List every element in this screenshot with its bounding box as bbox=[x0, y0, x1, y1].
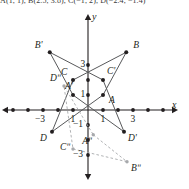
point-label-C-dd: Cʺ bbox=[60, 143, 70, 153]
coordinate-plane-figure: A(1, 1), B(2.5, 3.8), C(−1, 2), D(−2.4, … bbox=[0, 0, 189, 189]
vertex-B bbox=[124, 50, 128, 54]
y-tick-label-1: 1 bbox=[81, 90, 86, 100]
y-axis-tick bbox=[86, 153, 90, 157]
point-label-D-dd: Dʺ bbox=[50, 74, 61, 84]
point-label-A: A bbox=[109, 96, 115, 106]
point-label-B-dd: Bʺ bbox=[131, 164, 141, 174]
y-tick-label--3: −3 bbox=[73, 150, 83, 160]
y-axis-tick bbox=[86, 63, 90, 67]
x-axis-tick bbox=[71, 108, 75, 112]
y-axis-tick bbox=[86, 78, 90, 82]
point-label-A-p: A' bbox=[65, 82, 73, 92]
coordinate-plane-svg bbox=[0, 0, 189, 189]
vertex-A-dd bbox=[92, 133, 95, 136]
point-label-C-p: C' bbox=[107, 67, 115, 77]
x-axis-tick bbox=[146, 108, 150, 112]
vertex-A bbox=[71, 93, 75, 97]
vertex-D bbox=[50, 130, 54, 134]
point-label-A-dd: Aʺ bbox=[82, 137, 92, 147]
x-axis-label: x bbox=[172, 100, 176, 110]
y-axis-arrow-bottom bbox=[85, 174, 91, 180]
x-axis-tick bbox=[41, 108, 45, 112]
x-axis-tick bbox=[11, 108, 15, 112]
vertex-A bbox=[101, 93, 105, 97]
x-tick-label--3: −3 bbox=[35, 115, 45, 125]
y-tick-label--1: −1 bbox=[73, 120, 83, 130]
x-axis-tick bbox=[101, 108, 105, 112]
y-axis-arrow-top bbox=[85, 14, 91, 20]
x-axis-tick bbox=[56, 108, 60, 112]
x-tick-label-3: 3 bbox=[131, 115, 136, 125]
x-tick-label-1: 1 bbox=[101, 115, 106, 125]
y-axis-tick bbox=[86, 123, 90, 127]
x-axis-tick bbox=[131, 108, 135, 112]
point-label-D: D bbox=[40, 134, 47, 144]
vertex-B-dd bbox=[125, 160, 128, 163]
y-axis-label: y bbox=[92, 12, 96, 22]
point-label-B-p: B' bbox=[35, 41, 43, 51]
y-tick-label-3: 3 bbox=[81, 60, 86, 70]
point-label-C: C bbox=[61, 68, 67, 78]
y-axis-tick bbox=[86, 93, 90, 97]
point-label-D-p: D' bbox=[128, 134, 137, 144]
x-axis-arrow-left bbox=[2, 107, 8, 113]
x-axis-tick bbox=[116, 108, 120, 112]
axes-layer bbox=[2, 14, 178, 180]
point-label-B: B bbox=[133, 41, 139, 51]
vertex-D bbox=[122, 130, 126, 134]
x-axis-tick bbox=[26, 108, 30, 112]
vertex-C bbox=[101, 78, 105, 82]
vertex-B bbox=[48, 50, 52, 54]
x-axis-tick bbox=[161, 108, 165, 112]
